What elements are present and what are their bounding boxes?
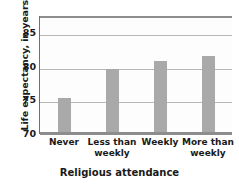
x-axis-title: Religious attendance [0,167,239,178]
x-axis-tick-labels: NeverLess thanweeklyWeeklyMore thanweekl… [40,137,232,163]
bar-weekly [154,61,167,134]
x-tick-label-line2: weekly [83,148,141,159]
y-tick-label-80: 80 [16,62,36,72]
gridline-85 [40,35,232,36]
y-tick-label-75: 75 [16,95,36,105]
bar-more-than-weekly [202,56,215,134]
plot-area [40,16,232,134]
y-axis-tick-labels: 70758085 [16,0,36,191]
y-tick-label-70: 70 [16,129,36,139]
x-tick-label-3: More thanweekly [179,137,237,158]
bar-chart-figure: Life expectancy, in years 70758085 Never… [0,0,239,191]
bar-never [58,98,71,134]
plot-inner [40,18,232,134]
x-tick-label-line1: More than [179,137,237,148]
x-axis-line [40,132,232,135]
bar-less-than-weekly [106,69,119,134]
y-tick-label-85: 85 [16,28,36,38]
x-tick-label-line2: weekly [179,148,237,159]
